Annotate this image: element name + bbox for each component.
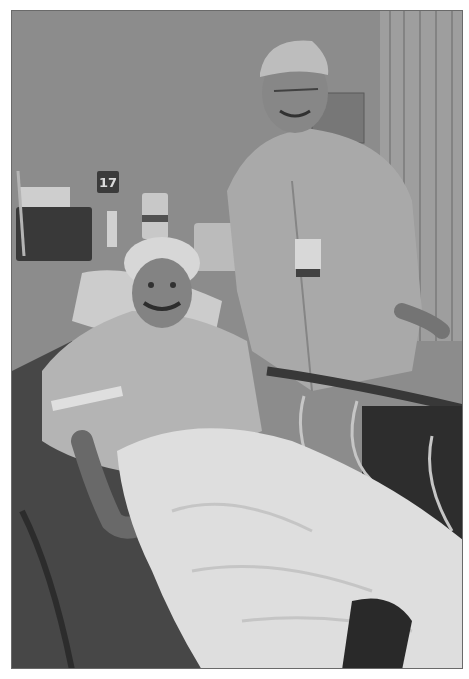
scene-illustration	[12, 11, 463, 669]
photo: 17	[11, 10, 463, 669]
room-number-sign: 17	[97, 171, 119, 193]
room-number: 17	[99, 175, 117, 190]
id-badge	[295, 239, 321, 269]
hand-sanitizer	[107, 211, 117, 247]
